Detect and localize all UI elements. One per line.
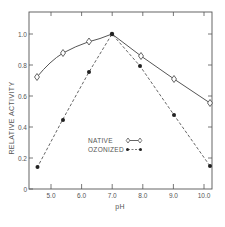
x-axis-label: pH xyxy=(115,203,125,211)
y-tick-0.8: 0.8 xyxy=(18,62,27,69)
ozonized-point xyxy=(172,113,176,117)
native-point xyxy=(172,76,177,83)
legend-ozonized-marker-icon xyxy=(139,148,142,151)
native-markers xyxy=(35,38,213,107)
y-tick-0: 0 xyxy=(23,186,27,193)
native-series-line xyxy=(37,34,210,103)
x-tick-7: 7.0 xyxy=(108,192,117,199)
native-point xyxy=(61,50,66,57)
x-tick-10: 10.0 xyxy=(198,192,211,199)
y-tick-labels: 0 0.2 0.4 0.6 0.8 1.0 xyxy=(18,31,27,193)
y-tick-0.4: 0.4 xyxy=(18,124,27,131)
x-tick-6: 6.0 xyxy=(77,192,86,199)
ozonized-point xyxy=(61,118,65,122)
plot-frame xyxy=(29,12,212,189)
ph-activity-chart: 0 0.2 0.4 0.6 0.8 1.0 5.0 6.0 7.0 8.0 9.… xyxy=(0,0,225,227)
legend: NATIVE OZONIZED xyxy=(88,137,142,153)
y-tick-0.6: 0.6 xyxy=(18,93,27,100)
x-tick-5: 5.0 xyxy=(46,192,55,199)
x-tick-8: 8.0 xyxy=(138,192,147,199)
ozonized-point xyxy=(36,165,40,169)
y-tick-0.2: 0.2 xyxy=(18,155,27,162)
native-point xyxy=(87,38,92,45)
legend-native-label: NATIVE xyxy=(88,137,113,144)
x-tick-labels: 5.0 6.0 7.0 8.0 9.0 10.0 xyxy=(46,192,210,199)
ozonized-point xyxy=(138,64,142,68)
legend-ozonized-label: OZONIZED xyxy=(88,146,124,153)
ozonized-point xyxy=(208,164,212,168)
native-point xyxy=(139,53,144,60)
y-tick-1.0: 1.0 xyxy=(18,31,27,38)
y-axis-label: RELATIVE ACTIVITY xyxy=(8,81,15,154)
shared-peak-point xyxy=(110,32,114,36)
legend-ozonized-marker-icon xyxy=(126,148,129,151)
x-axis xyxy=(51,12,204,189)
x-tick-9: 9.0 xyxy=(169,192,178,199)
ozonized-point xyxy=(87,70,91,74)
legend-native-marker-icon xyxy=(126,138,130,143)
legend-native-marker-icon xyxy=(138,138,142,143)
